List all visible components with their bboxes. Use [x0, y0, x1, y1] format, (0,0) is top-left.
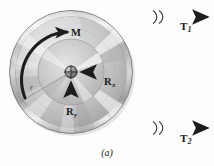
tension-bottom-label: T2: [180, 133, 192, 146]
tension-bottom-label-sub: 2: [188, 137, 192, 146]
figure-caption: (a): [0, 147, 214, 158]
reaction-x-label-sub: x: [112, 81, 116, 89]
moment-label: M: [71, 28, 81, 39]
radius-label-base: r: [30, 83, 33, 92]
tension-top-label-sub: 1: [188, 25, 192, 34]
tension-top-label: T1: [180, 21, 192, 34]
tension-top-label-base: T: [180, 20, 187, 32]
moment-label-base: M: [71, 27, 81, 38]
reaction-x-label: Rx: [104, 77, 116, 89]
reaction-y-label: Ry: [66, 107, 77, 119]
tension-bottom-label-base: T: [180, 132, 187, 144]
reaction-y-label-sub: y: [74, 111, 77, 119]
radius-label: r: [30, 84, 33, 92]
reaction-x-label-base: R: [104, 76, 112, 87]
reaction-y-label-base: R: [66, 106, 74, 117]
